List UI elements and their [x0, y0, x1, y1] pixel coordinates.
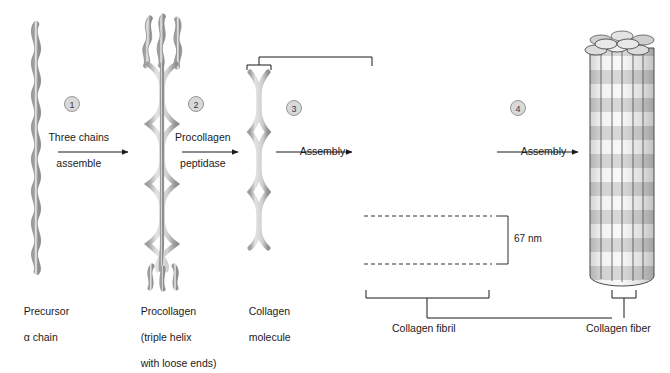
svg-text:2: 2: [193, 100, 198, 110]
step-badge-4: 4: [511, 101, 526, 116]
step-1-line1: Three chains: [48, 131, 109, 143]
step-badge-3: 3: [287, 101, 302, 116]
step-1-label: Three chains assemble: [30, 118, 116, 183]
banding-period-bracket: [496, 216, 508, 264]
collagen-fiber-graphic: [585, 31, 654, 318]
step-2-label: Procollagen peptidase: [154, 118, 240, 183]
caption-procollagen-line1: Procollagen: [141, 305, 196, 317]
caption-collagen-fibril: Collagen fibril: [392, 322, 456, 335]
collagen-fibril-bracket: [366, 290, 612, 318]
caption-precursor-line1: Precursor: [24, 305, 70, 317]
caption-precursor-alpha-chain: Precursor α chain: [12, 292, 69, 357]
step-badge-2: 2: [189, 97, 204, 112]
svg-text:4: 4: [515, 104, 520, 114]
step-4-label: Assembly: [503, 132, 573, 171]
step-2-line2: peptidase: [180, 157, 226, 169]
caption-collagen-molecule: Collagen molecule: [237, 292, 291, 357]
caption-precursor-line2: α chain: [24, 331, 58, 343]
caption-procollagen-line3: with loose ends): [141, 357, 217, 369]
collagen-fibril-graphic: [369, 20, 487, 282]
step-4-line1: Assembly: [521, 145, 567, 157]
banding-period-label: 67 nm: [514, 233, 542, 244]
step-badge-1: 1: [65, 97, 80, 112]
step-1-line2: assemble: [56, 157, 101, 169]
svg-text:3: 3: [291, 104, 296, 114]
caption-molecule-line2: molecule: [249, 331, 291, 343]
caption-molecule-line1: Collagen: [249, 305, 290, 317]
step-2-line1: Procollagen: [175, 131, 230, 143]
step-3-label: Assembly: [282, 132, 352, 171]
caption-procollagen-line2: (triple helix: [141, 331, 192, 343]
caption-procollagen: Procollagen (triple helix with loose end…: [129, 292, 217, 373]
caption-collagen-fiber: Collagen fiber: [586, 322, 651, 335]
step-3-line1: Assembly: [300, 145, 346, 157]
svg-text:1: 1: [69, 100, 74, 110]
